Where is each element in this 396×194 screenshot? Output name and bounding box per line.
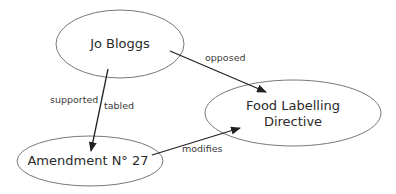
node-food-labelling-directive-line1: Food Labelling bbox=[218, 98, 368, 114]
node-amendment-27-label: Amendment N° 27 bbox=[18, 153, 158, 169]
edge-label-modifies: modifies bbox=[182, 143, 223, 154]
node-food-labelling-directive-label: Food Labelling Directive bbox=[218, 98, 368, 130]
edge-label-supported: supported bbox=[50, 94, 98, 105]
node-food-labelling-directive-line2: Directive bbox=[218, 114, 368, 130]
edge-label-opposed: opposed bbox=[205, 52, 246, 63]
node-jo-bloggs-label: Jo Bloggs bbox=[60, 36, 180, 52]
edge-label-tabled: tabled bbox=[104, 100, 134, 111]
